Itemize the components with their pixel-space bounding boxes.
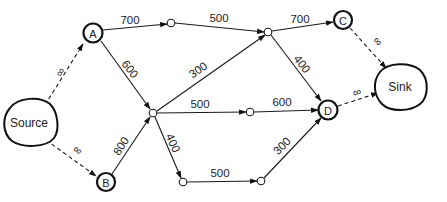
sink-label: Sink — [388, 80, 412, 94]
node-b-label: B — [102, 177, 109, 189]
source-node: Source — [4, 99, 57, 146]
edge-j4-j5 — [187, 181, 257, 182]
capacity-j2-c: 700 — [290, 13, 309, 25]
junctions — [149, 19, 272, 186]
capacity-j1-j2: 500 — [209, 12, 228, 24]
capacity-a-j1: 700 — [120, 14, 139, 26]
capacity-a-hub: 600 — [119, 58, 140, 81]
capacity-j4-j5: 500 — [210, 167, 229, 179]
edge-a-hub — [101, 41, 150, 109]
edge-hub-j3 — [157, 112, 246, 113]
capacity-source-b: ∞ — [71, 143, 85, 158]
node-c-label: C — [339, 15, 347, 27]
flow-network-diagram: Source Sink A B C D ∞ ∞ 700 600 800 500 … — [0, 0, 447, 202]
capacity-j2-d: 400 — [291, 53, 312, 76]
junction-node-j2 — [264, 28, 272, 36]
capacity-hub-j3: 500 — [190, 98, 209, 110]
capacity-source-a: ∞ — [53, 65, 68, 78]
capacity-hub-j2: 300 — [187, 60, 210, 81]
sink-node: Sink — [375, 64, 427, 110]
junction-node-j3 — [246, 108, 254, 116]
edge-j3-d — [254, 110, 318, 112]
capacity-j3-d: 600 — [272, 96, 291, 108]
junction-node-j1 — [167, 19, 175, 27]
junction-node-j4 — [179, 178, 187, 186]
junction-node-j5 — [257, 177, 265, 185]
junction-node-hub — [149, 109, 157, 117]
edge-source-b — [46, 140, 96, 176]
node-d-label: D — [324, 105, 332, 117]
edge-j1-j2 — [175, 23, 264, 32]
node-b: B — [97, 173, 115, 191]
capacity-b-hub: 800 — [111, 135, 132, 158]
capacity-d-sink: ∞ — [351, 85, 363, 99]
node-c: C — [334, 11, 352, 29]
edge-j2-d — [271, 35, 321, 101]
capacity-j5-d: 300 — [271, 135, 293, 157]
node-a-label: A — [89, 28, 97, 40]
capacity-c-sink: ∞ — [371, 34, 385, 48]
source-label: Source — [10, 116, 48, 130]
edge-hub-j2 — [157, 35, 265, 111]
node-a: A — [84, 24, 103, 43]
node-d: D — [319, 101, 338, 120]
